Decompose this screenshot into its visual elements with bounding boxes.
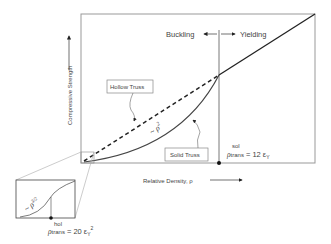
x-axis-label: Relative Density, ρ [143,178,193,184]
hollow-truss-pointer [130,93,135,121]
zoom-connector-left [16,152,81,180]
solid-transition-dot [217,161,221,165]
solid-transition-label: sol ρtrans= 12 εY [226,143,270,160]
svg-text:~ ρ2: ~ ρ2 [147,120,164,137]
solid-scaling-label: ~ ρ2 [147,120,164,137]
svg-text:sol: sol [232,143,240,149]
strength-density-diagram: Buckling Yielding Hollow Truss Solid Tru… [0,0,331,244]
svg-text:ρtrans= 12 εY: ρtrans= 12 εY [226,150,270,160]
solid-truss-pointer [193,120,200,148]
inset-box [16,180,75,218]
svg-text:hol: hol [54,221,62,227]
svg-text:Compressive Strength: Compressive Strength [67,66,73,125]
buckling-label: Buckling [166,30,194,39]
hollow-truss-label: Hollow Truss [110,84,144,90]
hollow-transition-dot [49,216,53,220]
yield-line [219,14,315,75]
hollow-transition-label: hol ρtrans= 20 εY2 [47,221,94,237]
yielding-label: Yielding [240,30,266,39]
y-axis-label: Compressive Strength [67,66,73,125]
solid-truss-label: Solid Truss [170,152,200,158]
